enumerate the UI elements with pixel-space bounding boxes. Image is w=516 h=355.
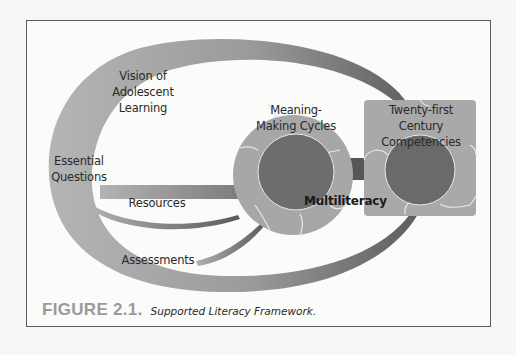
assessments-arc bbox=[196, 222, 266, 266]
twenty-first-line: Twenty-first bbox=[378, 102, 464, 118]
twenty-first-line: Competencies bbox=[378, 134, 464, 150]
meaning-making-label: Meaning- Making Cycles bbox=[250, 102, 342, 134]
figure-number: FIGURE 2.1. bbox=[42, 300, 143, 319]
essential-questions-label: Essential Questions bbox=[48, 153, 110, 185]
figure-caption: FIGURE 2.1.Supported Literacy Framework. bbox=[42, 300, 316, 320]
essential-questions-line: Questions bbox=[48, 169, 110, 185]
assessments-label: Assessments bbox=[120, 252, 196, 268]
multiliteracy-label: Multiliteracy bbox=[304, 193, 384, 209]
vision-label-line: Vision of bbox=[106, 68, 180, 84]
figure-title: Supported Literacy Framework. bbox=[151, 305, 317, 317]
meaning-making-line: Making Cycles bbox=[250, 118, 342, 134]
meaning-making-line: Meaning- bbox=[250, 102, 342, 118]
essential-questions-line: Essential bbox=[48, 153, 110, 169]
vision-label-line: Adolescent bbox=[106, 84, 180, 100]
resources-label: Resources bbox=[126, 195, 188, 211]
twenty-first-label: Twenty-first Century Competencies bbox=[378, 102, 464, 150]
vision-label: Vision of Adolescent Learning bbox=[106, 68, 180, 116]
vision-label-line: Learning bbox=[106, 100, 180, 116]
twenty-first-line: Century bbox=[378, 118, 464, 134]
